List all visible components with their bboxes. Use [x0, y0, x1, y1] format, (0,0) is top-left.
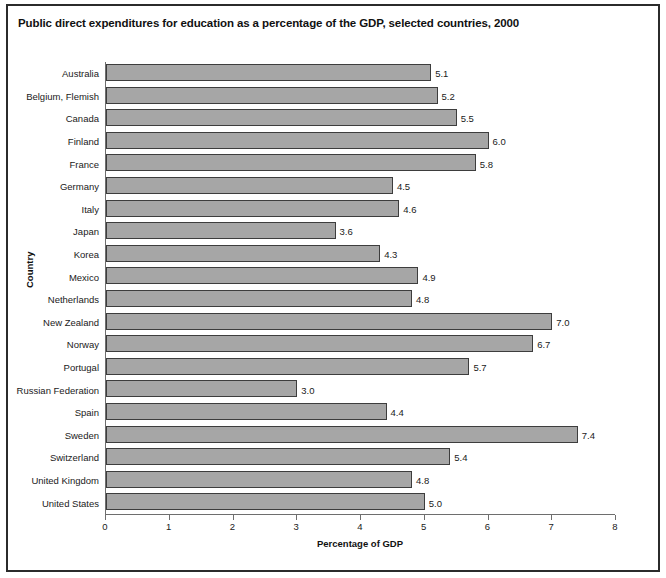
bar-value-label: 3.0: [301, 384, 314, 395]
bar-value-label: 4.5: [397, 181, 410, 192]
bar-value-label: 5.0: [429, 497, 442, 508]
bar: [106, 493, 425, 510]
category-label: Italy: [82, 203, 99, 214]
category-label: Germany: [60, 181, 99, 192]
category-label: Netherlands: [48, 294, 99, 305]
category-label: Mexico: [69, 271, 99, 282]
category-label: Portugal: [64, 362, 99, 373]
bar-row: Belgium, Flemish5.2: [105, 85, 615, 108]
bar-row: Switzerland5.4: [105, 446, 615, 469]
bar: [106, 222, 336, 239]
bar-value-label: 6.7: [537, 339, 550, 350]
category-label: New Zealand: [43, 316, 99, 327]
bar: [106, 64, 431, 81]
bar-value-label: 4.6: [403, 203, 416, 214]
bar-row: United States5.0: [105, 491, 615, 514]
bar-value-label: 5.7: [473, 362, 486, 373]
bar-value-label: 5.4: [454, 452, 467, 463]
bar-value-label: 4.3: [384, 249, 397, 260]
y-axis-title: Country: [24, 252, 35, 288]
bar-row: Finland6.0: [105, 130, 615, 153]
category-label: Sweden: [65, 429, 99, 440]
bar: [106, 290, 412, 307]
x-tick-label: 6: [485, 521, 490, 532]
bar: [106, 132, 489, 149]
bar-row: France5.8: [105, 152, 615, 175]
chart-title: Public direct expenditures for education…: [18, 17, 519, 29]
bar: [106, 380, 297, 397]
category-label: Korea: [74, 249, 99, 260]
bar: [106, 177, 393, 194]
category-label: Russian Federation: [17, 384, 99, 395]
bar-value-label: 5.1: [435, 68, 448, 79]
bar: [106, 200, 399, 217]
x-tick-mark: [233, 515, 234, 520]
x-tick-label: 1: [166, 521, 171, 532]
category-label: Spain: [75, 407, 99, 418]
bar-value-label: 5.2: [442, 90, 455, 101]
bar: [106, 245, 380, 262]
category-label: Norway: [67, 339, 99, 350]
bar-value-label: 4.8: [416, 475, 429, 486]
bar-row: Netherlands4.8: [105, 288, 615, 311]
bar-value-label: 7.4: [582, 429, 595, 440]
bar-value-label: 3.6: [340, 226, 353, 237]
x-tick-label: 8: [612, 521, 617, 532]
bar-row: New Zealand7.0: [105, 311, 615, 334]
bar-row: Spain4.4: [105, 401, 615, 424]
category-label: United Kingdom: [31, 475, 99, 486]
bar: [106, 267, 418, 284]
bar-value-label: 4.8: [416, 294, 429, 305]
x-tick-label: 3: [294, 521, 299, 532]
bar: [106, 109, 457, 126]
category-label: Finland: [68, 136, 99, 147]
bar: [106, 335, 533, 352]
bar-value-label: 4.4: [391, 407, 404, 418]
bar-row: Australia5.1: [105, 62, 615, 85]
x-tick-mark: [551, 515, 552, 520]
x-tick-mark: [615, 515, 616, 520]
bar-value-label: 4.9: [422, 271, 435, 282]
bar-value-label: 7.0: [556, 316, 569, 327]
bar: [106, 358, 469, 375]
plot-area: Australia5.1Belgium, Flemish5.2Canada5.5…: [105, 62, 615, 514]
bar-value-label: 6.0: [493, 136, 506, 147]
x-tick-mark: [360, 515, 361, 520]
bar-row: Norway6.7: [105, 333, 615, 356]
x-tick-label: 5: [421, 521, 426, 532]
bar-row: Mexico4.9: [105, 265, 615, 288]
x-tick-label: 7: [549, 521, 554, 532]
category-label: Belgium, Flemish: [26, 90, 99, 101]
x-tick-label: 4: [357, 521, 362, 532]
category-label: United States: [42, 497, 99, 508]
x-tick-mark: [424, 515, 425, 520]
bar-row: United Kingdom4.8: [105, 469, 615, 492]
bar-row: Russian Federation3.0: [105, 378, 615, 401]
bar: [106, 313, 552, 330]
bar: [106, 448, 450, 465]
bar-value-label: 5.5: [461, 113, 474, 124]
x-tick-mark: [169, 515, 170, 520]
x-tick-mark: [296, 515, 297, 520]
category-label: Japan: [73, 226, 99, 237]
bar: [106, 471, 412, 488]
bar-row: Japan3.6: [105, 220, 615, 243]
bar: [106, 426, 578, 443]
bar-row: Germany4.5: [105, 175, 615, 198]
bar-row: Korea4.3: [105, 243, 615, 266]
bar-row: Portugal5.7: [105, 356, 615, 379]
bar-row: Italy4.6: [105, 198, 615, 221]
bar-value-label: 5.8: [480, 158, 493, 169]
bar-row: Sweden7.4: [105, 424, 615, 447]
category-label: Switzerland: [50, 452, 99, 463]
bar: [106, 403, 387, 420]
category-label: France: [69, 158, 99, 169]
bar: [106, 87, 438, 104]
category-label: Australia: [62, 68, 99, 79]
x-tick-label: 0: [102, 521, 107, 532]
x-tick-label: 2: [230, 521, 235, 532]
x-tick-mark: [105, 515, 106, 520]
x-axis-title: Percentage of GDP: [317, 538, 403, 549]
bar: [106, 154, 476, 171]
x-tick-mark: [488, 515, 489, 520]
